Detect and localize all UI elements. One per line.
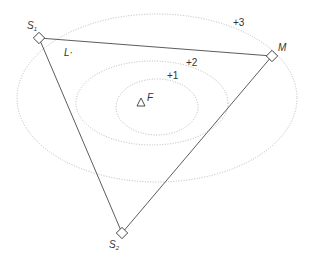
contour-inner [116, 79, 198, 135]
edge-s1-m [39, 38, 272, 56]
vertex-label-s2: S2 [109, 239, 120, 251]
focus-triangle-icon [137, 98, 145, 106]
edge-s1-s2 [39, 38, 122, 233]
edge-label-l: L· [64, 47, 73, 58]
vertex-label-m: M [278, 42, 287, 53]
contour-label-1: +1 [167, 70, 179, 81]
vertex-s1-diamond-icon [33, 32, 44, 43]
vertex-label-s1: S1 [27, 20, 37, 32]
focus-label: F [147, 92, 154, 103]
contour-label-3: +3 [233, 17, 245, 28]
contour-middle [76, 61, 228, 145]
triangulation-diagram: +3 +2 +1 S1 M S2 F L· [0, 0, 311, 257]
vertex-s2-diamond-icon [116, 227, 127, 238]
contour-label-2: +2 [186, 57, 198, 68]
vertex-m-diamond-icon [266, 50, 277, 61]
